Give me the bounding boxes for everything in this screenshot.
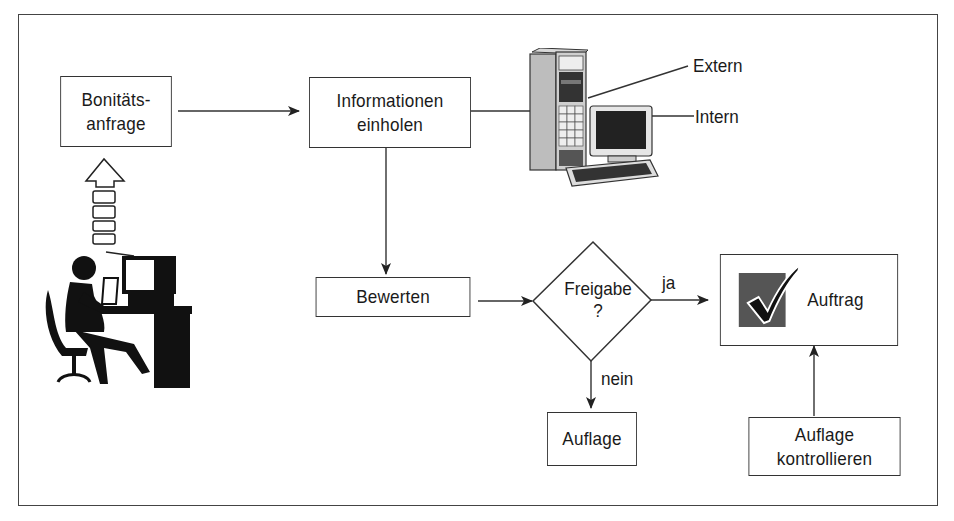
node-bonitaetsanfrage-line1: Bonitäts-	[81, 88, 150, 112]
node-freigabe-text: Freigabe ?	[553, 278, 643, 322]
label-extern: Extern	[693, 55, 742, 77]
node-bonitaetsanfrage: Bonitäts- anfrage	[60, 76, 172, 147]
node-freigabe-line2: ?	[553, 300, 643, 322]
node-informationen-line2: einholen	[337, 113, 444, 137]
node-informationen-line1: Informationen	[337, 89, 444, 113]
node-bewerten: Bewerten	[316, 277, 471, 317]
node-informationen-einholen: Informationen einholen	[309, 77, 471, 148]
node-auflage-kontrollieren: Auflage kontrollieren	[748, 417, 900, 476]
desktop-computer-icon	[564, 104, 660, 188]
label-intern: Intern	[695, 106, 739, 128]
checkmark-icon	[739, 273, 786, 327]
edge-label-ja: ja	[662, 272, 675, 294]
person-at-computer-icon	[44, 248, 192, 390]
node-bonitaetsanfrage-line2: anfrage	[81, 112, 150, 136]
node-auflage-kontrollieren-line1: Auflage	[777, 423, 872, 447]
edge-label-nein: nein	[601, 368, 633, 390]
node-auftrag: Auftrag	[720, 254, 898, 346]
node-auflage: Auflage	[547, 412, 637, 466]
block-arrow-up-icon	[82, 157, 130, 253]
node-auftrag-label: Auftrag	[807, 288, 863, 312]
node-auflage-kontrollieren-line2: kontrollieren	[777, 447, 872, 471]
node-auflage-label: Auflage	[562, 427, 621, 451]
node-freigabe-line1: Freigabe	[553, 278, 643, 300]
node-bewerten-label: Bewerten	[356, 285, 430, 309]
